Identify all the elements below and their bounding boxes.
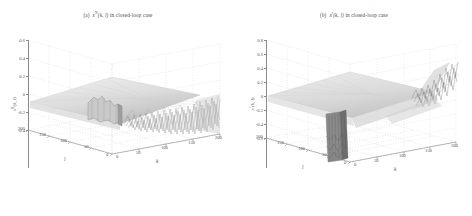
panel-a-ltick-200: 200 [18, 126, 25, 131]
panel-b-ztick-5: -0.2 [256, 108, 263, 113]
panel-b-ltick-200: 200 [256, 134, 263, 139]
panel-a-ktick-0: 0 [116, 154, 118, 159]
panel-b-k-axis-label: k [394, 166, 396, 172]
panel-a-ztick-1: 0.4 [19, 56, 25, 61]
panel-a-ztick-4: -0.2 [18, 110, 25, 115]
panel-a-ktick-150: 150 [188, 140, 195, 145]
panel-b: (b) xr(k, l) in closed-loop case [236, 0, 472, 216]
panel-b-ktick-0: 0 [354, 162, 356, 167]
panel-b-ltick-100: 100 [298, 146, 305, 151]
panel-b-title-prefix: (b) [320, 12, 327, 18]
panel-b-ktick-150: 150 [425, 148, 432, 153]
panel-a-ktick-100: 100 [161, 145, 168, 150]
panel-b-ztick-0: 0.8 [257, 38, 263, 43]
panel-b-axes: 0.8 0.6 0.4 0.2 0 -0.2 -0.4 -0.6 xr(k, l… [266, 40, 460, 168]
panel-a-k-axis-label: k [156, 158, 158, 164]
panel-b-title-args: (k, l) [333, 12, 344, 18]
panel-a-axes: 0.6 0.4 0.2 0 -0.2 -0.4 kxN(k, l) [28, 40, 224, 168]
panel-a-bottom-axes [28, 40, 224, 168]
figure-container: (a) xN(k, l) in closed-loop case [0, 0, 472, 216]
panel-a-ztick-3: 0 [23, 92, 25, 97]
panel-a-l-axis-label: l [64, 156, 66, 162]
panel-b-z-axis-label: xr(k, l) [248, 97, 255, 110]
panel-a-title: (a) xN(k, l) in closed-loop case [0, 11, 236, 18]
panel-a-ltick-50: 50 [84, 144, 89, 149]
panel-a-title-suffix: in closed-loop case [110, 12, 153, 18]
panel-a-ztick-2: 0.2 [19, 74, 25, 79]
panel-b-title-suffix: in closed-loop case [345, 12, 388, 18]
panel-a-ktick-50: 50 [136, 150, 141, 155]
panel-b-ztick-4: 0 [261, 94, 263, 99]
panel-b-ltick-150: 150 [277, 140, 284, 145]
panel-b-title: (b) xr(k, l) in closed-loop case [236, 11, 472, 18]
panel-b-l-axis-label: l [302, 164, 304, 170]
panel-b-ltick-50: 50 [322, 152, 327, 157]
panel-a-title-prefix: (a) [83, 12, 89, 18]
panel-b-ltick-0: 0 [344, 160, 346, 165]
panel-b-ktick-100: 100 [399, 153, 406, 158]
panel-b-ztick-1: 0.6 [257, 52, 263, 57]
panel-b-ztick-6: -0.4 [256, 122, 263, 127]
panel-a-ltick-150: 150 [39, 132, 46, 137]
panel-a-ltick-100: 100 [60, 138, 67, 143]
panel-a-ktick-200: 200 [215, 135, 222, 140]
panel-b-ztick-2: 0.4 [257, 66, 263, 71]
panel-a: (a) xN(k, l) in closed-loop case [0, 0, 236, 216]
panel-a-z-axis-label: kxN(k, l) [11, 97, 18, 111]
panel-a-ltick-0: 0 [106, 152, 108, 157]
panel-a-title-args: (k, l) [98, 12, 109, 18]
panel-b-ktick-50: 50 [374, 158, 379, 163]
panel-a-ztick-0: 0.6 [19, 38, 25, 43]
panel-b-ztick-3: 0.2 [257, 80, 263, 85]
panel-b-ktick-200: 200 [451, 143, 458, 148]
